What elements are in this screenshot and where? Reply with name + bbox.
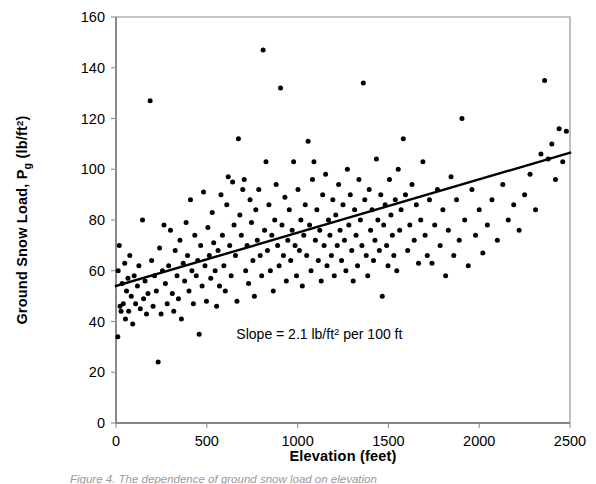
data-point [326, 218, 331, 223]
data-point [459, 116, 464, 121]
data-point [116, 268, 121, 273]
data-point [288, 258, 293, 263]
data-point [163, 281, 168, 286]
data-point [364, 253, 369, 258]
data-point [480, 250, 485, 255]
data-point [223, 289, 228, 294]
data-point [229, 273, 234, 278]
data-point [274, 182, 279, 187]
data-point [320, 192, 325, 197]
data-point [438, 243, 443, 248]
data-point [141, 296, 146, 301]
data-point [191, 301, 196, 306]
figure-caption: Figure 4. The dependence of ground snow … [70, 473, 377, 484]
data-point [303, 202, 308, 207]
data-point [304, 253, 309, 258]
data-point [121, 301, 126, 306]
data-point [184, 220, 189, 225]
data-point [293, 243, 298, 248]
data-point [248, 197, 253, 202]
data-point [338, 228, 343, 233]
data-point [115, 334, 120, 339]
data-point [125, 276, 130, 281]
data-point [117, 243, 122, 248]
data-point [290, 228, 295, 233]
data-point [361, 80, 366, 85]
data-point [271, 289, 276, 294]
data-point [266, 202, 271, 207]
data-point [173, 248, 178, 253]
y-axis-title-units-close: ) [14, 115, 30, 120]
y-axis-title-units-open: (lb/ft [14, 126, 30, 163]
data-point [168, 228, 173, 233]
data-point [214, 304, 219, 309]
data-point [349, 248, 354, 253]
data-point [341, 202, 346, 207]
data-point [133, 301, 138, 306]
y-tick-label: 20 [89, 364, 105, 380]
data-point [354, 233, 359, 238]
data-point [217, 283, 222, 288]
x-tick-label: 0 [112, 433, 120, 449]
data-point [255, 238, 260, 243]
data-point [329, 253, 334, 258]
data-point [517, 228, 522, 233]
data-point [258, 253, 263, 258]
data-point [410, 182, 415, 187]
data-point [485, 223, 490, 228]
data-point [179, 316, 184, 321]
data-point [345, 167, 350, 172]
data-point [285, 238, 290, 243]
data-point [358, 218, 363, 223]
data-point [287, 207, 292, 212]
data-point [182, 278, 187, 283]
data-point [351, 278, 356, 283]
data-point [123, 316, 128, 321]
data-point [221, 263, 226, 268]
data-point [399, 207, 404, 212]
data-point [323, 172, 328, 177]
slope-annotation: Slope = 2.1 lb/ft2 per 100 ft [236, 326, 402, 343]
data-point [297, 248, 302, 253]
data-point [375, 218, 380, 223]
data-point [138, 306, 143, 311]
data-point [124, 289, 129, 294]
data-point [306, 139, 311, 144]
data-point [239, 233, 244, 238]
data-point [451, 253, 456, 258]
data-point [333, 212, 338, 217]
y-tick-label: 80 [89, 212, 105, 228]
y-tick-label: 0 [97, 415, 105, 431]
data-point [275, 243, 280, 248]
data-point [277, 263, 282, 268]
data-point [140, 218, 145, 223]
data-point [272, 218, 277, 223]
y-tick-label: 60 [89, 263, 105, 279]
y-axis-title-subscript: g [21, 163, 33, 170]
x-tick-label: 1000 [281, 433, 313, 449]
data-point [243, 268, 248, 273]
data-point [380, 294, 385, 299]
data-point [387, 177, 392, 182]
data-point [414, 202, 419, 207]
data-point [313, 238, 318, 243]
data-point [391, 253, 396, 258]
data-point [553, 177, 558, 182]
data-point [246, 281, 251, 286]
data-point [261, 47, 266, 52]
data-point [403, 192, 408, 197]
data-point [171, 309, 176, 314]
data-point [390, 233, 395, 238]
data-point [298, 218, 303, 223]
x-axis-title: Elevation (feet) [289, 448, 396, 464]
data-point [253, 207, 258, 212]
data-point [256, 187, 261, 192]
data-point [166, 263, 171, 268]
data-point [211, 240, 216, 245]
figure-container: 0204060801001201401600500100015002000250… [0, 0, 596, 484]
data-point [307, 223, 312, 228]
data-point [335, 243, 340, 248]
y-axis-title-main: Ground Snow Load, P [14, 169, 30, 324]
data-point [469, 187, 474, 192]
data-point [237, 212, 242, 217]
